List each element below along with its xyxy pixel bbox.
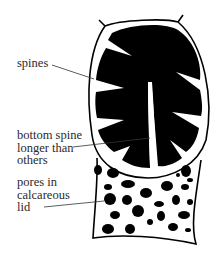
right-horn xyxy=(178,15,183,22)
left-horn xyxy=(99,20,105,26)
label-spines-line-1: spines xyxy=(17,57,48,70)
label-pores: pores in calcareous lid xyxy=(17,176,70,214)
label-bottom-spine: bottom spine longer than others xyxy=(17,129,82,167)
label-pores-line-3: lid xyxy=(17,201,70,214)
label-bottom-spine-line-3: others xyxy=(17,154,82,167)
label-pores-line-1: pores in xyxy=(17,176,70,189)
label-spines: spines xyxy=(17,57,48,70)
operculum-diagram: spines bottom spine longer than others p… xyxy=(0,0,224,263)
label-bottom-spine-line-1: bottom spine xyxy=(17,129,82,142)
spines-leader xyxy=(52,65,94,79)
